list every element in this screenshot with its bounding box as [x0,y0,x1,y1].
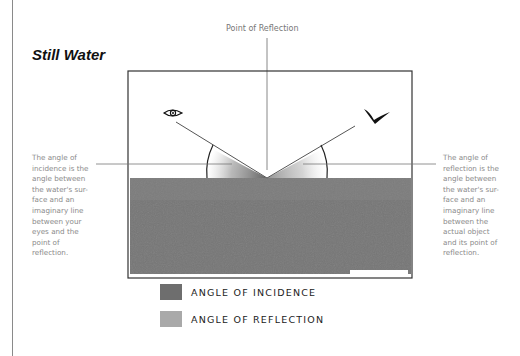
angle-of-incidence-note: The angle of incidence is the angle betw… [32,153,94,259]
bird-icon [364,109,390,124]
legend-item-incidence: ANGLE OF INCIDENCE [160,284,316,300]
legend-label-reflection: ANGLE OF REFLECTION [191,314,324,325]
angle-of-incidence-wedge [202,146,267,178]
legend-item-reflection: ANGLE OF REFLECTION [160,311,324,327]
legend-label-incidence: ANGLE OF INCIDENCE [191,287,316,298]
legend-swatch-reflection [160,311,182,327]
eye-icon [164,110,182,116]
legend-swatch-incidence [160,284,182,300]
angle-of-reflection-note: The angle of reflection is the angle bet… [443,153,505,259]
angle-of-reflection-wedge [267,146,332,178]
